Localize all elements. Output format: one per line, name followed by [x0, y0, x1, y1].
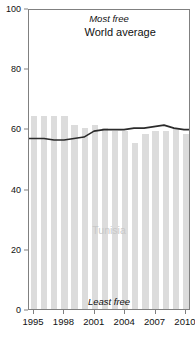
x-axis-tick-label: 1995	[22, 316, 43, 327]
annotation-most-free: Most free	[89, 13, 129, 24]
x-axis-tick-mark	[33, 310, 34, 314]
x-axis: 199519982001200420072010	[0, 312, 195, 332]
y-axis-tick-label: 40	[11, 185, 21, 195]
x-axis-tick-label: 2001	[83, 316, 104, 327]
x-axis-tick-label: 2010	[174, 316, 195, 327]
x-axis-tick-mark	[63, 310, 64, 314]
y-axis: 020406080100	[0, 0, 28, 319]
annotation-tunisia: Tunisia	[92, 224, 125, 236]
plot-area: Most free Least free World average Tunis…	[28, 9, 190, 310]
chart-title-fragment	[0, 0, 195, 3]
x-axis-tick-label: 2007	[144, 316, 165, 327]
y-axis-tick-label: 20	[11, 245, 21, 255]
x-axis-tick-mark	[124, 310, 125, 314]
line-series-world-average	[29, 10, 189, 309]
y-axis-tick-label: 80	[11, 64, 21, 74]
chart-figure: 020406080100 Most free Least free World …	[0, 0, 195, 343]
x-axis-tick-mark	[155, 310, 156, 314]
y-axis-tick-label: 60	[11, 124, 21, 134]
x-axis-tick-mark	[185, 310, 186, 314]
annotation-world-average: World average	[85, 26, 156, 38]
x-axis-tick-mark	[94, 310, 95, 314]
annotation-least-free: Least free	[88, 296, 130, 307]
x-axis-tick-label: 2004	[114, 316, 135, 327]
x-axis-tick-label: 1998	[53, 316, 74, 327]
y-axis-tick-label: 100	[6, 4, 21, 14]
